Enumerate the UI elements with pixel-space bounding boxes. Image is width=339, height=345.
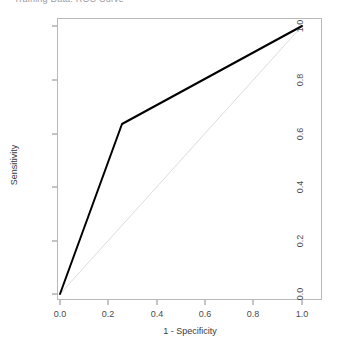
y-tick-label: 0.8 — [289, 74, 311, 86]
x-tick-label: 0.2 — [102, 309, 115, 319]
y-axis-ticks — [52, 26, 57, 294]
x-tick-label: 0.4 — [151, 309, 164, 319]
x-axis-ticks — [60, 300, 302, 305]
roc-plot: Training Data: ROC Curve 0.0 0.2 0.4 0.6 — [0, 0, 339, 345]
x-tick-label: 0.8 — [247, 309, 260, 319]
x-axis-title: 1 - Specificity — [163, 326, 217, 336]
y-tick-label: 0.6 — [289, 128, 311, 140]
y-tick-label: 0.0 — [289, 288, 311, 300]
y-tick-label: 0.2 — [289, 235, 311, 247]
reference-line — [60, 26, 302, 294]
x-tick-label: 1.0 — [296, 309, 309, 319]
y-tick-label: 0.4 — [289, 181, 311, 193]
y-axis-title: Sensitivity — [9, 145, 19, 186]
x-tick-label: 0.0 — [54, 309, 67, 319]
y-tick-label: 1.0 — [289, 20, 311, 32]
x-tick-label: 0.6 — [199, 309, 212, 319]
